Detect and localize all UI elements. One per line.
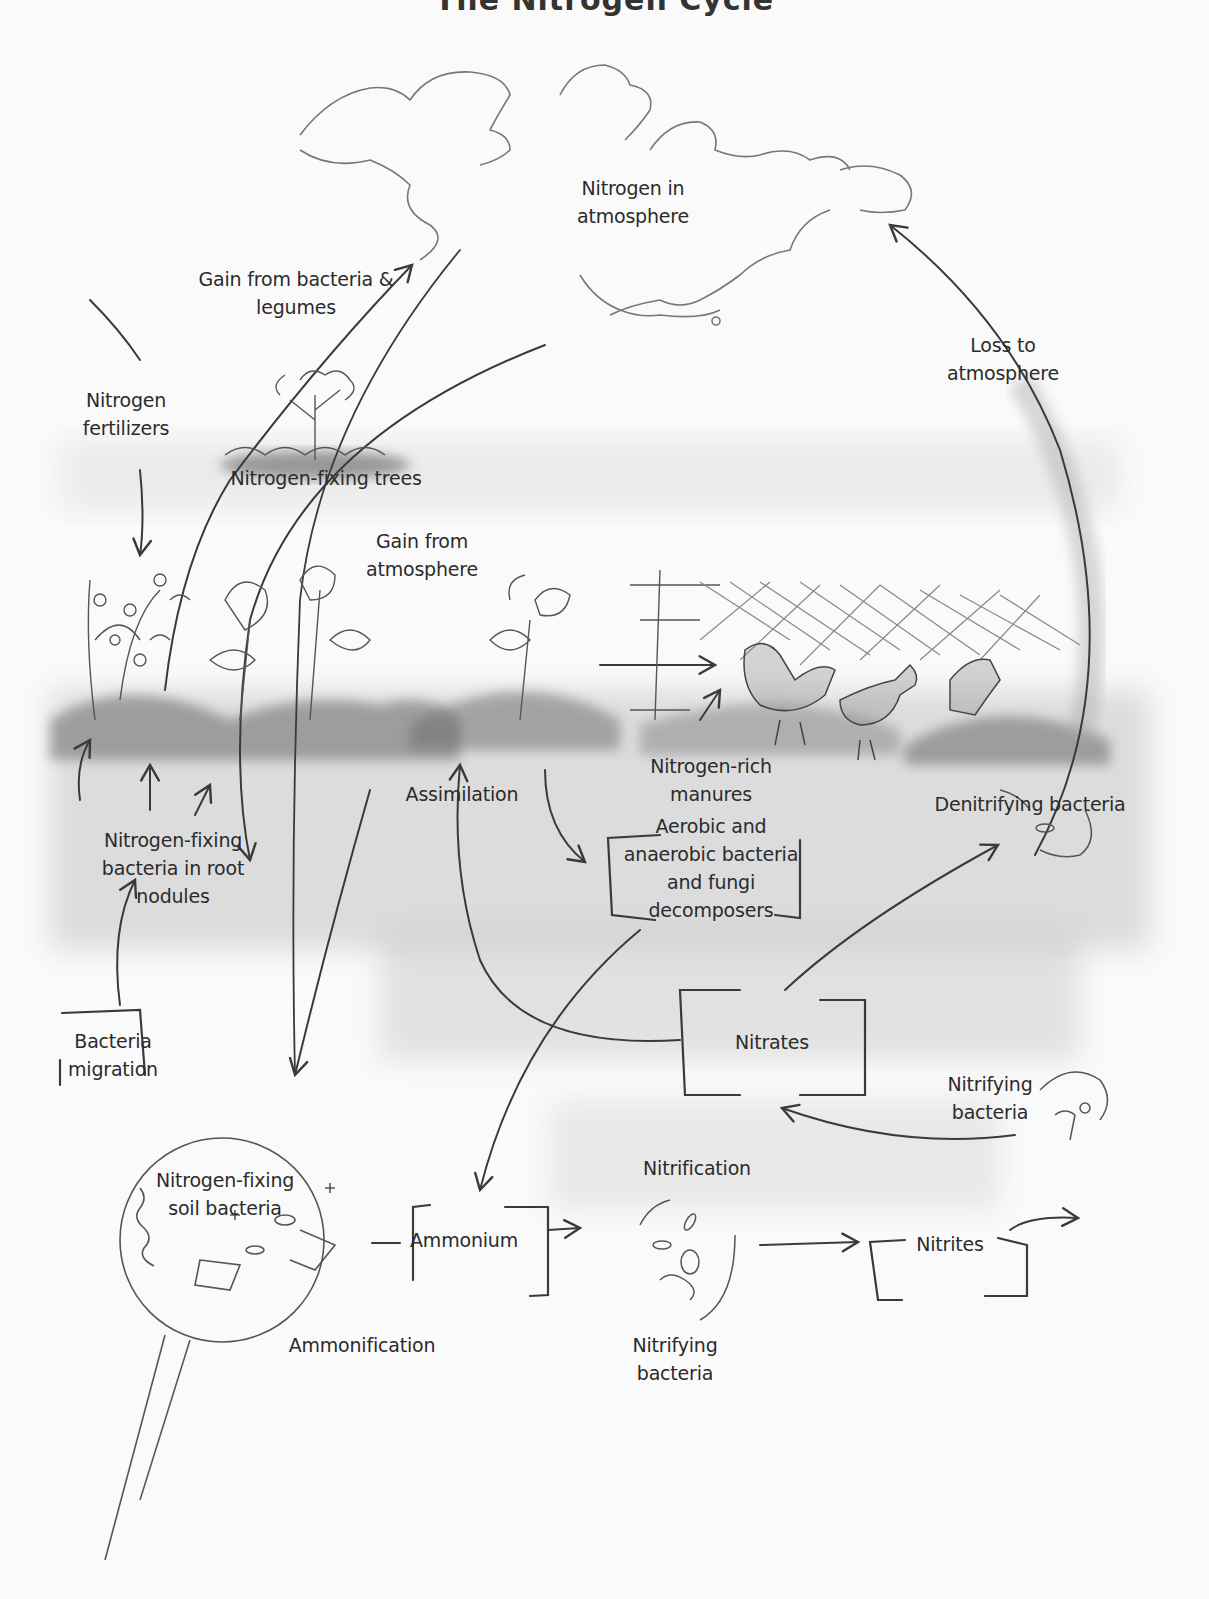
label-loss-to-atmosphere: Loss toatmosphere [947, 331, 1059, 387]
label-denitrifying-bacteria: Denitrifying bacteria [934, 790, 1125, 818]
diagram-title: The Nitrogen Cycle [0, 0, 1209, 17]
label-assimilation: Assimilation [406, 780, 519, 808]
label-atmosphere: Nitrogen inatmosphere [577, 174, 689, 230]
label-nitrogen-fertilizers: Nitrogenfertilizers [83, 386, 170, 442]
label-nitrites: Nitrites [916, 1230, 983, 1258]
label-nitrates: Nitrates [735, 1028, 809, 1056]
label-ammonification: Ammonification [289, 1331, 436, 1359]
label-nitrogen-fixing-trees: Nitrogen-fixing trees [230, 464, 421, 492]
arrow-fertilizers [90, 300, 140, 360]
label-root-nodule-bacteria: Nitrogen-fixingbacteria in rootnodules [102, 826, 244, 910]
label-ammonium: Ammonium [410, 1226, 518, 1254]
arrow-nitrification-nitrites [760, 1242, 858, 1245]
arrow-fertilizers-down [140, 470, 143, 555]
label-nitrifying-bacteria-upper: Nitrifyingbacteria [947, 1070, 1032, 1126]
arrow-nitrites-out [1010, 1218, 1078, 1231]
label-decomposers: Aerobic andanaerobic bacteriaand fungide… [624, 812, 798, 924]
arrow-ammonium-nitrification [548, 1228, 580, 1230]
label-nitrifying-bacteria-lower: Nitrifyingbacteria [632, 1331, 717, 1387]
label-soil-bacteria: Nitrogen-fixingsoil bacteria [156, 1166, 294, 1222]
label-nitrogen-rich-manures: Nitrogen-richmanures [650, 752, 772, 808]
label-bacteria-migration: Bacteriamigration [68, 1027, 158, 1083]
label-gain-bacteria-legumes: Gain from bacteria &legumes [199, 265, 394, 321]
label-gain-from-atmosphere: Gain fromatmosphere [366, 527, 478, 583]
label-nitrification: Nitrification [643, 1154, 751, 1182]
